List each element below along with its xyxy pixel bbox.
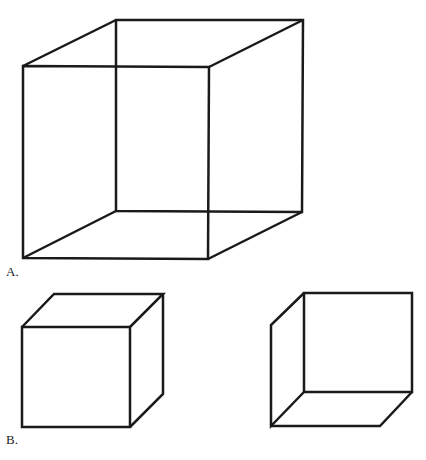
cube-b-left-right-side (130, 294, 163, 427)
cube-a-edge-tl (23, 20, 116, 66)
cube-a-edge-tr (209, 20, 303, 67)
panel-b-label: B. (6, 432, 18, 448)
cube-b-right-back-face (304, 293, 412, 392)
cube-b-right-left-side (271, 293, 304, 426)
panel-a-label: A. (6, 264, 19, 280)
cube-a-edge-br (208, 212, 302, 259)
cube-a-edge-bl (23, 211, 116, 258)
cube-b-left (22, 294, 163, 427)
necker-cube-a (23, 20, 303, 259)
cube-b-right (271, 293, 412, 426)
cube-b-left-top (22, 294, 163, 327)
figure-canvas (0, 0, 426, 460)
cube-b-right-bottom (271, 392, 412, 426)
cube-b-left-front-face (22, 327, 130, 427)
